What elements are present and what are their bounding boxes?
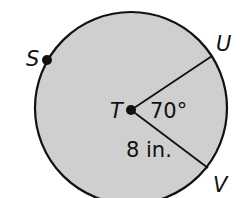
label-T: T [110, 99, 125, 123]
point-S [42, 55, 52, 65]
center-point-T [126, 105, 136, 115]
radius-label: 8 in. [126, 138, 172, 162]
label-V: V [213, 173, 229, 197]
circle-diagram: S U V T 70° 8 in. [0, 0, 240, 198]
angle-label: 70° [150, 99, 187, 123]
label-U: U [216, 32, 231, 56]
label-S: S [26, 47, 39, 71]
